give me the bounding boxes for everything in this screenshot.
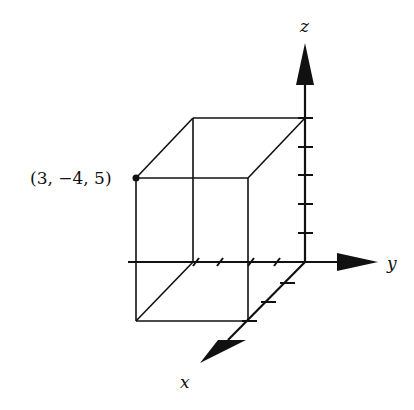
x-arrow-icon xyxy=(200,340,246,363)
y-axis-label: y xyxy=(386,253,397,273)
y-arrow-icon xyxy=(337,253,378,271)
x-axis-label: x xyxy=(180,372,190,392)
z-axis-label: z xyxy=(299,16,310,36)
coordinate-diagram: z y x (3, −4, 5) xyxy=(0,0,414,410)
point-label: (3, −4, 5) xyxy=(30,168,112,188)
point-marker xyxy=(133,175,140,182)
z-arrow-icon xyxy=(296,43,314,85)
x-ticks xyxy=(242,283,295,321)
box-edges xyxy=(136,118,305,321)
